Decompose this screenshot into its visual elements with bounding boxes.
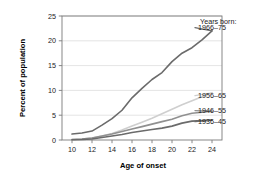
y-tick-label: 20 <box>48 36 56 45</box>
figure-container: 1012141618202224 0510152025 1966–751956–… <box>0 0 260 181</box>
y-tick-label: 10 <box>48 86 56 95</box>
x-tick-label: 16 <box>128 145 136 154</box>
y-tick-label: 15 <box>48 61 56 70</box>
y-tick-label: 25 <box>48 12 56 21</box>
series-label: 1936–45 <box>198 117 226 126</box>
x-tick-label: 22 <box>188 145 196 154</box>
legend-heading: Years born: <box>200 17 237 26</box>
y-tick-label: 0 <box>52 136 56 145</box>
x-tick-label: 10 <box>68 145 76 154</box>
line-chart: 1012141618202224 0510152025 1966–751956–… <box>0 0 260 181</box>
x-axis-title: Age of onset <box>120 161 166 170</box>
x-tick-label: 14 <box>108 145 116 154</box>
series-label: 1956–65 <box>198 91 226 100</box>
x-tick-label: 12 <box>88 145 96 154</box>
series-label: 1946–55 <box>198 106 226 115</box>
x-tick-label: 18 <box>148 145 156 154</box>
x-tick-label: 20 <box>168 145 176 154</box>
y-axis-title: Percent of population <box>18 39 27 117</box>
y-tick-label: 5 <box>52 111 56 120</box>
x-tick-label: 24 <box>208 145 216 154</box>
